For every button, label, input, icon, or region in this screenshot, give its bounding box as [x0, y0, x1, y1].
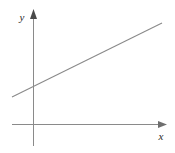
figure-background — [0, 0, 175, 153]
y-axis-label: y — [19, 11, 25, 23]
linear-graph-figure: y x — [0, 0, 175, 153]
x-axis-label: x — [158, 130, 164, 142]
graph-canvas: y x — [0, 0, 175, 153]
